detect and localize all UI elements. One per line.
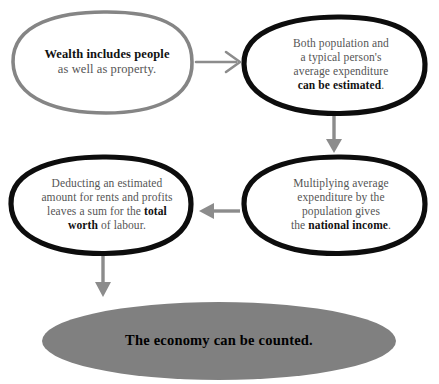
arrow-income-to-worth [199,203,240,219]
node-shape-start[interactable] [13,12,192,113]
node-shape-worth[interactable] [11,157,191,254]
arrow-start-to-estimated [196,52,240,72]
arrow-head [326,139,342,153]
arrow-head [95,282,111,297]
node-shape-estimated[interactable] [244,17,425,114]
arrow-estimated-to-income [326,116,342,153]
arrow-head [199,203,214,219]
node-shape-conclusion[interactable] [42,302,396,380]
arrow-worth-to-conclusion [95,256,111,297]
node-shape-income[interactable] [244,157,425,254]
flowchart-diagram: Wealth includes people as well as proper… [0,0,439,384]
diagram-canvas [0,0,439,384]
